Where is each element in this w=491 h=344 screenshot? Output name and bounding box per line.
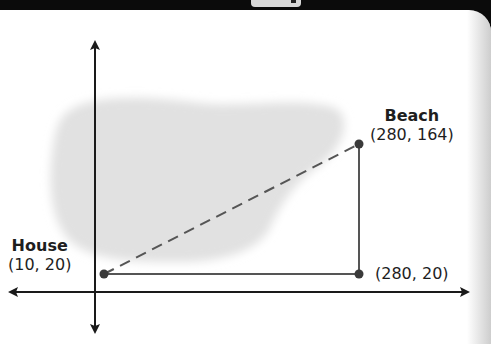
label-house: House (10, 20)	[8, 236, 71, 274]
label-beach-coords: (280, 164)	[370, 125, 454, 144]
label-corner: (280, 20)	[375, 264, 449, 283]
label-house-coords: (10, 20)	[8, 255, 71, 274]
label-house-name: House	[8, 236, 71, 255]
point-beach	[355, 140, 364, 149]
label-beach: Beach (280, 164)	[370, 106, 454, 144]
label-corner-coords: (280, 20)	[375, 264, 449, 283]
point-house	[100, 270, 109, 279]
label-beach-name: Beach	[370, 106, 454, 125]
point-corner	[355, 270, 364, 279]
coordinate-diagram	[0, 0, 491, 344]
